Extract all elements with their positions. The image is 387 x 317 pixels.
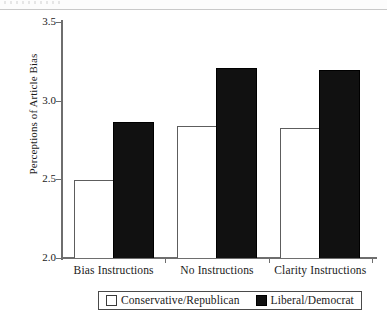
bar-dark-2 [216, 68, 257, 258]
y-tick-mark [56, 258, 62, 259]
legend-swatch-dark-icon [256, 295, 267, 306]
x-tick-mark [372, 258, 373, 263]
y-tick-label: 3.5 [22, 15, 56, 27]
legend-item-conservative-republican: Conservative/Republican [106, 294, 240, 306]
bar-dark-1 [113, 122, 154, 258]
y-tick-label: 2.0 [22, 251, 56, 263]
bar-chart-figure: Perceptions of Article Bias 2.02.53.03.5… [0, 0, 387, 317]
bar-light-2 [177, 126, 218, 258]
x-tick-mark [165, 258, 166, 263]
y-tick-label: 2.5 [22, 172, 56, 184]
legend-label-liberal-democrat: Liberal/Democrat [271, 294, 354, 306]
x-tick-mark [269, 258, 270, 263]
legend-swatch-light-icon [106, 295, 117, 306]
y-tick-label: 3.0 [22, 94, 56, 106]
chart-legend: Conservative/Republican Liberal/Democrat [98, 291, 362, 310]
x-category-label: Bias Instructions [62, 264, 165, 276]
bar-dark-3 [319, 70, 360, 258]
bar-light-3 [280, 128, 321, 258]
legend-label-conservative-republican: Conservative/Republican [121, 294, 240, 306]
plot-area [62, 22, 372, 258]
x-category-label: Clarity Instructions [269, 264, 372, 276]
x-category-label: No Instructions [165, 264, 268, 276]
legend-item-liberal-democrat: Liberal/Democrat [256, 294, 354, 306]
bar-light-1 [74, 180, 115, 258]
